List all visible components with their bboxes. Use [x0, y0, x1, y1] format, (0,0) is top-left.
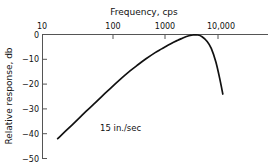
y-tick-label-minus-30: −30	[22, 105, 39, 114]
x-tick-label-1000: 1000	[155, 22, 175, 31]
chart-figure: 10 100 1000 10,000 0 −10 −20 −30 −40 −50…	[0, 0, 276, 168]
y-axis-title: Relative response, db	[4, 47, 14, 144]
y-axis-ticks	[43, 35, 48, 159]
y-tick-label-minus-20: −20	[22, 80, 39, 89]
curve-annotation: 15 in./sec	[100, 123, 141, 133]
x-tick-label-10000: 10,000	[207, 22, 235, 31]
y-tick-label-0: 0	[34, 31, 39, 40]
y-tick-label-minus-10: −10	[22, 55, 39, 64]
y-tick-label-minus-50: −50	[22, 155, 39, 164]
frequency-response-chart: 10 100 1000 10,000 0 −10 −20 −30 −40 −50…	[0, 0, 276, 168]
x-axis-title: Frequency, cps	[110, 7, 178, 17]
x-tick-label-100: 100	[105, 22, 120, 31]
y-tick-label-minus-40: −40	[22, 130, 39, 139]
